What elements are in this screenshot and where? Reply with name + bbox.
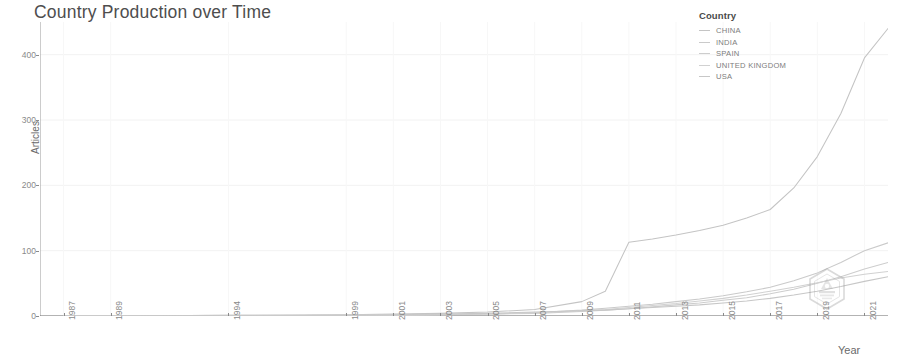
y-tick-label: 100 xyxy=(2,246,36,256)
x-tick-mark xyxy=(629,313,630,316)
x-tick-label: 1994 xyxy=(232,301,242,320)
hexagon-logo-watermark xyxy=(807,267,847,311)
legend-item-usa[interactable]: USA xyxy=(699,71,889,83)
x-axis-title: Year xyxy=(838,344,860,356)
x-axis-ticks: 1987198919941999200120032005200720092011… xyxy=(40,316,888,360)
x-tick-mark xyxy=(488,313,489,316)
y-tick-mark xyxy=(36,55,39,56)
legend-item-spain[interactable]: SPAIN xyxy=(699,48,889,60)
legend-item-united-kingdom[interactable]: UNITED KINGDOM xyxy=(699,60,889,72)
hexagon-icon xyxy=(807,267,847,311)
legend-item-label: UNITED KINGDOM xyxy=(716,61,786,70)
y-tick-mark xyxy=(36,120,39,121)
x-tick-mark xyxy=(535,313,536,316)
y-tick-label: 300 xyxy=(2,115,36,125)
legend-title: Country xyxy=(699,10,889,21)
x-tick-mark xyxy=(582,313,583,316)
x-tick-label: 2013 xyxy=(680,301,690,320)
y-tick-label: 400 xyxy=(2,50,36,60)
y-tick-label: 200 xyxy=(2,180,36,190)
x-tick-label: 2003 xyxy=(444,301,454,320)
x-tick-mark xyxy=(676,313,677,316)
x-tick-mark xyxy=(723,313,724,316)
x-tick-mark xyxy=(111,313,112,316)
legend-items: CHINAINDIASPAINUNITED KINGDOMUSA xyxy=(699,25,889,83)
y-axis-ticks: 0100200300400 xyxy=(0,22,36,316)
x-tick-label: 2007 xyxy=(538,301,548,320)
legend-item-india[interactable]: INDIA xyxy=(699,37,889,49)
legend-item-label: CHINA xyxy=(716,26,741,35)
legend-item-china[interactable]: CHINA xyxy=(699,25,889,37)
x-tick-mark xyxy=(64,313,65,316)
x-tick-label: 2001 xyxy=(397,301,407,320)
chart-figure: Country Production over Time Articles 01… xyxy=(0,0,908,362)
x-tick-mark xyxy=(393,313,394,316)
chart-legend: Country CHINAINDIASPAINUNITED KINGDOMUSA xyxy=(699,10,889,83)
x-tick-label: 1999 xyxy=(350,301,360,320)
x-tick-label: 2017 xyxy=(774,301,784,320)
y-tick-label: 0 xyxy=(2,311,36,321)
x-tick-mark xyxy=(440,313,441,316)
legend-item-label: INDIA xyxy=(716,38,738,47)
x-tick-label: 1989 xyxy=(114,301,124,320)
legend-item-label: USA xyxy=(716,72,732,81)
legend-line-swatch xyxy=(699,53,710,54)
legend-line-swatch xyxy=(699,30,710,31)
legend-line-swatch xyxy=(699,42,710,43)
x-tick-label: 2021 xyxy=(868,301,878,320)
legend-item-label: SPAIN xyxy=(716,49,739,58)
legend-line-swatch xyxy=(699,65,710,66)
x-tick-mark xyxy=(817,313,818,316)
x-tick-mark xyxy=(770,313,771,316)
x-tick-mark xyxy=(346,313,347,316)
x-tick-label: 2015 xyxy=(727,301,737,320)
x-tick-mark xyxy=(864,313,865,316)
x-tick-label: 2005 xyxy=(491,301,501,320)
x-tick-label: 2009 xyxy=(585,301,595,320)
x-tick-label: 2011 xyxy=(632,302,642,320)
chart-title: Country Production over Time xyxy=(34,2,271,23)
y-tick-mark xyxy=(36,185,39,186)
y-tick-mark xyxy=(36,316,39,317)
x-tick-label: 1987 xyxy=(67,301,77,320)
x-tick-mark xyxy=(228,313,229,316)
y-tick-mark xyxy=(36,251,39,252)
legend-line-swatch xyxy=(699,76,710,77)
